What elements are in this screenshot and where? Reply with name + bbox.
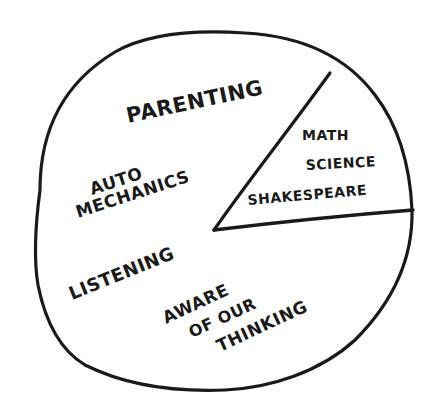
pie-chart: PARENTING AUTO MECHANICS LISTENING AWARE… (0, 0, 435, 417)
label-science: SCIENCE (305, 153, 376, 173)
label-math: MATH (302, 127, 349, 143)
wedge-lower-edge (214, 210, 413, 230)
label-listening: LISTENING (66, 242, 178, 303)
label-parenting: PARENTING (124, 75, 265, 127)
label-shakespeare: SHAKESPEARE (247, 182, 368, 208)
